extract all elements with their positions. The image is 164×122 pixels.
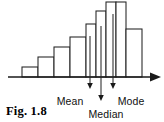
- histogram-figure: Mean Mode Median Fig. 1.8: [0, 0, 164, 122]
- histogram-bar: [116, 2, 126, 77]
- histogram-bar: [38, 57, 54, 77]
- mode-arrowhead-icon: [110, 83, 116, 89]
- figure-container: Mean Mode Median Fig. 1.8: [0, 0, 164, 122]
- histogram-bar: [86, 24, 96, 77]
- x-axis-arrowhead-icon: [150, 73, 161, 82]
- median-label: Median: [88, 108, 123, 120]
- histogram-bar: [126, 29, 142, 77]
- figure-caption: Fig. 1.8: [6, 104, 47, 118]
- histogram-bar: [54, 47, 70, 77]
- mean-arrowhead-icon: [87, 83, 93, 89]
- histogram-bar: [22, 67, 38, 77]
- mode-label: Mode: [118, 95, 145, 107]
- median-arrowhead-icon: [98, 95, 104, 101]
- mean-label: Mean: [57, 95, 84, 107]
- histogram-bars: [22, 2, 142, 77]
- histogram-bar: [70, 37, 86, 77]
- histogram-bar: [106, 2, 116, 77]
